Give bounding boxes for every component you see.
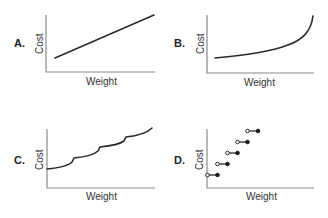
panel-d: D. Cost Weight (174, 129, 314, 202)
panel-b-label: B. (174, 37, 185, 49)
filled-circle-icon (216, 173, 220, 177)
panel-a-ylabel: Cost (34, 33, 45, 54)
panel-c-label: C. (14, 154, 25, 166)
panel-c-ylabel: Cost (34, 149, 45, 170)
panel-a-xlabel: Weight (86, 76, 117, 87)
step-3 (226, 151, 240, 155)
filled-circle-icon (236, 151, 240, 155)
panel-d-label: D. (174, 154, 185, 166)
cost-weight-diagram: A. Cost Weight B. Cost Weight C. Cost We… (0, 0, 328, 218)
panel-d-xlabel: Weight (246, 191, 277, 202)
step-1 (206, 173, 220, 177)
panel-b-curve (215, 16, 313, 58)
panel-c-curve (47, 128, 152, 169)
step-4 (236, 140, 250, 144)
filled-circle-icon (256, 129, 260, 133)
panel-d-axes (207, 129, 314, 188)
panel-b: B. Cost Weight (174, 15, 314, 88)
step-2 (216, 162, 230, 166)
open-circle-icon (206, 173, 210, 177)
panel-d-ylabel: Cost (194, 149, 205, 170)
panel-a-label: A. (14, 37, 25, 49)
open-circle-icon (216, 162, 220, 166)
panel-c-axes (47, 129, 155, 188)
panel-a-line (55, 15, 154, 58)
panel-b-axes (207, 15, 314, 73)
panel-b-ylabel: Cost (195, 33, 206, 54)
step-5 (246, 129, 260, 133)
open-circle-icon (226, 151, 230, 155)
open-circle-icon (236, 140, 240, 144)
filled-circle-icon (226, 162, 230, 166)
panel-c: C. Cost Weight (14, 128, 155, 202)
filled-circle-icon (246, 140, 250, 144)
panel-b-xlabel: Weight (244, 77, 275, 88)
panel-a-axes (46, 15, 155, 72)
panel-a: A. Cost Weight (14, 15, 155, 87)
open-circle-icon (246, 129, 250, 133)
panel-c-xlabel: Weight (86, 191, 117, 202)
